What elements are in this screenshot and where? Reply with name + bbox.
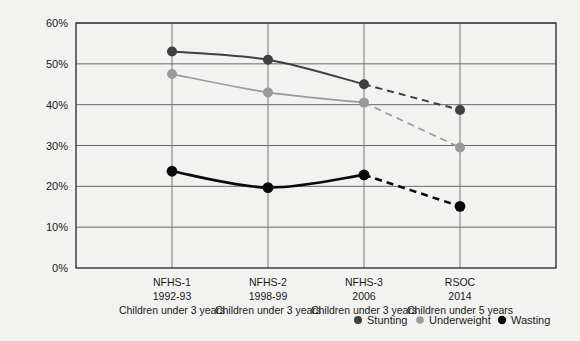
data-point-wasting-nfhs-3 [359,170,370,181]
y-axis-tick-label: 40% [46,99,68,111]
x-axis-label-line: 2014 [448,290,472,302]
y-axis-tick-label: 30% [46,140,68,152]
chart-legend: StuntingUnderweightWasting [354,314,550,326]
legend-label-underweight: Underweight [429,314,491,326]
data-point-stunting-nfhs-1 [167,47,177,57]
y-axis-tick-label: 60% [46,17,68,29]
x-axis-label-line: NFHS-3 [345,276,383,288]
legend-marker-wasting [498,316,506,324]
data-point-underweight-nfhs-1 [167,69,177,79]
y-axis-tick-label: 0% [52,262,68,274]
data-point-underweight-nfhs-3 [359,98,369,108]
legend-marker-underweight [416,316,424,324]
legend-label-wasting: Wasting [511,314,550,326]
data-point-wasting-rsoc [455,201,466,212]
x-axis-label-line: Children under 3 years [215,304,321,316]
data-point-stunting-rsoc [455,105,465,115]
legend-label-stunting: Stunting [367,314,407,326]
x-axis-label-line: 1998-99 [249,290,288,302]
x-axis-label-line: NFHS-2 [249,276,287,288]
x-axis-label-line: NFHS-1 [153,276,191,288]
data-point-underweight-nfhs-2 [263,87,273,97]
data-point-underweight-rsoc [455,143,465,153]
x-axis-label-line: RSOC [445,276,476,288]
y-axis-tick-label: 20% [46,180,68,192]
nutrition-trend-line-chart: 0%10%20%30%40%50%60% NFHS-11992-93Childr… [0,0,580,341]
data-point-wasting-nfhs-2 [263,182,274,193]
x-axis-label-line: 2006 [352,290,376,302]
legend-marker-stunting [354,316,362,324]
data-point-stunting-nfhs-3 [359,79,369,89]
data-point-stunting-nfhs-2 [263,55,273,65]
x-axis-label-line: Children under 3 years [119,304,225,316]
y-axis-tick-label: 10% [46,221,68,233]
y-axis-tick-label: 50% [46,58,68,70]
data-point-wasting-nfhs-1 [167,166,178,177]
chart-container: 0%10%20%30%40%50%60% NFHS-11992-93Childr… [0,0,580,341]
x-axis-label-line: 1992-93 [153,290,192,302]
